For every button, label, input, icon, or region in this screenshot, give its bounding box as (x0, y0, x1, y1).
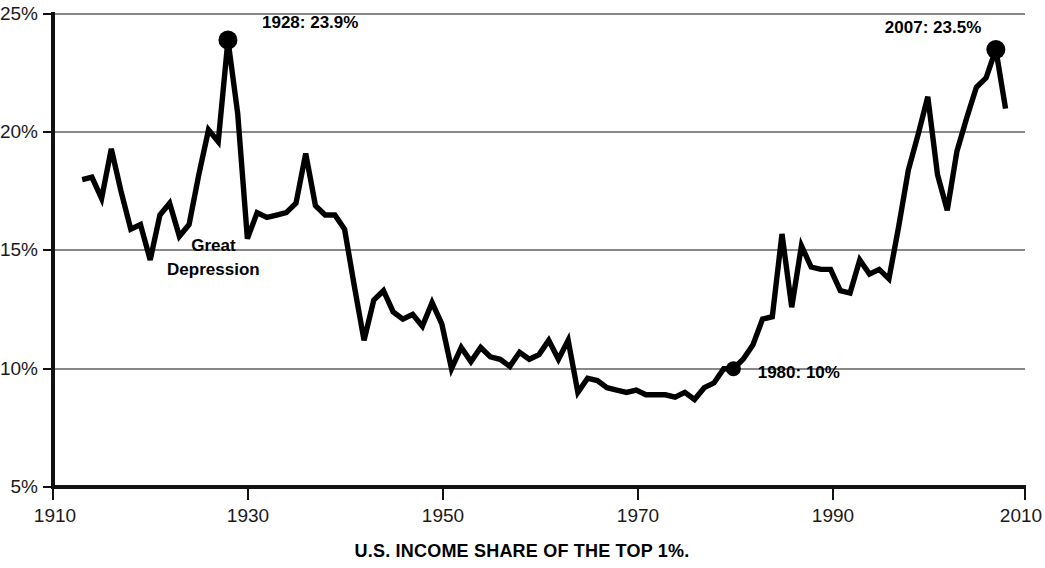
annotation-label-great-depression-line2: Depression (167, 260, 260, 279)
chart-container: 25% 20% 15% 10% 5% 1910 1930 1950 1970 1… (0, 0, 1045, 568)
x-tick-label-1970: 1970 (617, 505, 659, 526)
annotation-label-great-depression-line1: Great (191, 236, 236, 255)
income-share-line-chart: 25% 20% 15% 10% 5% 1910 1930 1950 1970 1… (0, 0, 1045, 568)
y-tick-label-5: 5% (11, 476, 39, 497)
y-tick-label-10: 10% (0, 358, 38, 379)
x-axis: 1910 1930 1950 1970 1990 2010 (34, 487, 1042, 526)
data-point-marker-peak-1928 (218, 31, 237, 50)
annotation-label-point-1980: 1980: 10% (758, 363, 840, 382)
annotation-label-peak-2007: 2007: 23.5% (885, 18, 981, 37)
annotation-layer: 1928: 23.9%GreatDepression1980: 10%2007:… (167, 13, 1005, 382)
annotation-great-depression: GreatDepression (167, 236, 260, 279)
annotation-label-peak-1928: 1928: 23.9% (262, 13, 358, 32)
x-tick-label-2010: 2010 (1000, 505, 1042, 526)
data-point-marker-point-1980 (726, 361, 741, 376)
data-series-line (82, 40, 1005, 399)
x-tick-label-1950: 1950 (422, 505, 464, 526)
x-tick-label-1990: 1990 (812, 505, 854, 526)
x-tick-label-1930: 1930 (227, 505, 269, 526)
y-tick-label-15: 15% (0, 239, 38, 260)
y-tick-label-25: 25% (0, 3, 38, 24)
data-point-marker-peak-2007 (986, 40, 1005, 59)
x-tick-label-1910: 1910 (34, 505, 76, 526)
y-tick-label-20: 20% (0, 121, 38, 142)
y-axis: 25% 20% 15% 10% 5% (0, 3, 53, 497)
chart-title: U.S. INCOME SHARE OF THE TOP 1%. (355, 541, 690, 561)
